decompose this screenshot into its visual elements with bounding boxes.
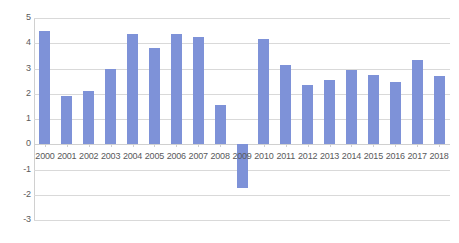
x-axis-tick: [330, 144, 331, 147]
gridline: [34, 119, 450, 120]
gridline: [34, 220, 450, 221]
gridline: [34, 18, 450, 19]
bar: [171, 34, 182, 144]
gridline: [34, 43, 450, 44]
x-axis-tick: [67, 144, 68, 147]
y-tick-label: 1: [5, 114, 31, 123]
plot-area: [34, 18, 450, 220]
x-axis-tick: [308, 144, 309, 147]
y-tick-label: -1: [5, 165, 31, 174]
x-axis-tick: [198, 144, 199, 147]
bar: [215, 105, 226, 144]
x-axis-tick: [395, 144, 396, 147]
bar: [193, 37, 204, 144]
x-axis-tick: [176, 144, 177, 147]
x-axis-labels: 2000200120022003200420052006200720082009…: [34, 151, 450, 165]
x-axis-tick: [417, 144, 418, 147]
bar: [149, 48, 160, 144]
bar: [105, 69, 116, 145]
bar: [390, 82, 401, 144]
x-axis-tick: [264, 144, 265, 147]
x-axis-tick: [154, 144, 155, 147]
bar: [434, 76, 445, 144]
bar: [127, 34, 138, 144]
y-tick-label: -2: [5, 190, 31, 199]
y-axis-labels: 543210-1-2-3: [0, 0, 31, 243]
bar: [412, 60, 423, 145]
y-tick-label: 4: [5, 38, 31, 47]
bar: [258, 39, 269, 144]
gridline: [34, 69, 450, 70]
gridline: [34, 94, 450, 95]
gridline: [34, 195, 450, 196]
x-axis-tick: [45, 144, 46, 147]
bar: [39, 31, 50, 145]
bar: [61, 96, 72, 144]
y-tick-label: 3: [5, 64, 31, 73]
x-axis-tick: [439, 144, 440, 147]
x-axis-tick: [220, 144, 221, 147]
bar: [280, 65, 291, 145]
bar: [302, 85, 313, 144]
x-axis-tick: [111, 144, 112, 147]
bar: [368, 75, 379, 144]
y-tick-label: 0: [5, 139, 31, 148]
bar: [346, 70, 357, 144]
x-axis-tick: [286, 144, 287, 147]
bar: [324, 80, 335, 144]
x-tick-label: 2018: [426, 151, 452, 162]
bar: [83, 91, 94, 144]
x-axis-tick: [373, 144, 374, 147]
x-axis-tick: [351, 144, 352, 147]
y-tick-label: -3: [5, 215, 31, 224]
y-tick-label: 2: [5, 89, 31, 98]
y-tick-label: 5: [5, 13, 31, 22]
x-axis-tick: [89, 144, 90, 147]
x-axis-tick: [133, 144, 134, 147]
bar-chart: 543210-1-2-3 200020012002200320042005200…: [0, 0, 459, 243]
